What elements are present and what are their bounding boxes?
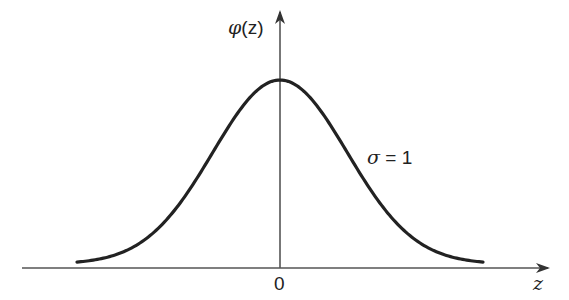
y-axis-label: φ(z)	[228, 16, 263, 38]
normal-distribution-chart: φ(z) z 0 σ = 1	[0, 0, 569, 300]
x-axis-label: z	[532, 272, 544, 294]
sigma-annotation: σ = 1	[367, 146, 412, 168]
origin-tick-label: 0	[274, 273, 285, 294]
